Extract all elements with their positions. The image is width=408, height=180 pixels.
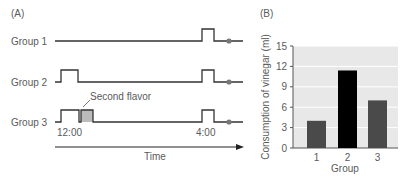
y-tick-label: 0 [281,143,287,154]
group-label: Group 3 [11,117,48,128]
y-tick-label: 9 [281,81,287,92]
group-label: Group 1 [11,36,48,47]
y-tick-label: 3 [281,122,287,133]
x-tick-label: 3 [375,152,381,163]
bar-group-2 [338,70,357,148]
x-axis-label: Group [331,163,359,174]
y-axis-label: Consumption of vinegar (ml) [260,34,271,160]
x-tick-label: 1 [314,152,320,163]
endpoint-dot-icon [226,119,231,124]
group-label: Group 2 [11,77,48,88]
figure: (A) Group 1Group 2Group 3 Second ﬂavor 1… [0,0,408,180]
bar-group-3 [368,100,387,148]
bar-chart: 03691215123 [276,41,398,164]
endpoint-dot-icon [226,79,231,84]
y-tick-label: 6 [281,102,287,113]
panel-a-label: (A) [11,8,24,19]
group-timeline [55,29,243,41]
time-label-start: 12:00 [57,127,82,138]
y-tick-label: 15 [276,41,288,52]
y-tick-label: 12 [276,61,288,72]
time-label-end: 4:00 [196,127,216,138]
time-axis-label: Time [144,151,166,162]
second-flavor-pulse [81,110,93,122]
annotation-leader-line [83,100,90,107]
x-tick-label: 2 [345,152,351,163]
bar-group-1 [307,121,326,148]
group-timelines: Group 1Group 2Group 3 [11,29,243,128]
panel-b-label: (B) [260,8,273,19]
second-flavor-annotation: Second ﬂavor [90,91,152,102]
arrow-head-icon [236,144,244,150]
group-timeline [55,70,243,82]
endpoint-dot-icon [226,38,231,43]
